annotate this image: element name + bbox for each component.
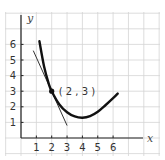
point-label: ( 2 , 3 ): [59, 86, 96, 97]
y-tick-label: 5: [10, 55, 16, 66]
y-tick-label: 4: [10, 70, 16, 81]
y-axis-label: y: [26, 12, 34, 25]
y-tick-label: 2: [10, 101, 16, 112]
x-axis-label: x: [147, 132, 154, 145]
x-tick-label: 1: [33, 142, 39, 153]
x-tick-label: 3: [64, 142, 70, 153]
chart: 123456 123456 y x ( 2 , 3 ): [0, 0, 165, 160]
x-tick-label: 5: [95, 142, 101, 153]
x-tick-label: 4: [79, 142, 85, 153]
y-tick-label: 3: [10, 86, 16, 97]
point-marker: [49, 89, 54, 94]
x-tick-label: 2: [49, 142, 55, 153]
curve: [39, 41, 117, 117]
x-tick-label: 6: [110, 142, 116, 153]
y-tick-label: 6: [10, 39, 16, 50]
grid: [5, 12, 160, 156]
y-tick-label: 1: [10, 117, 16, 128]
